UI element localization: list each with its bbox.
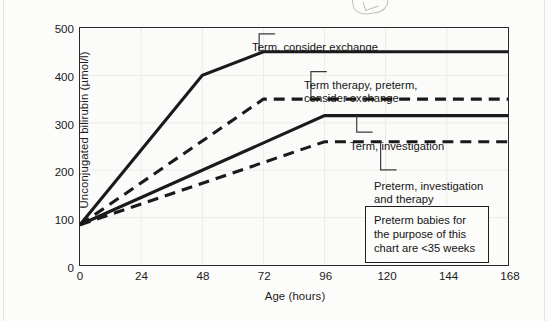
scan-edge-left: [3, 0, 4, 321]
x-axis-label: Age (hours): [80, 290, 510, 302]
y-tick-0: 0: [36, 261, 74, 274]
y-axis-label: Unconjugated bilirubin (µmol/l): [78, 0, 90, 280]
y-tick-200: 200: [36, 165, 74, 178]
chart-plot-area: 0 100 200 300 400 500 0 24 48 72 96 120 …: [79, 27, 509, 266]
x-tick-144: 144: [439, 269, 458, 282]
annotation-term-consider-exchange: Term, consider exchange: [252, 41, 378, 54]
y-tick-400: 400: [36, 69, 74, 82]
x-tick-72: 72: [258, 269, 271, 282]
x-axis-ticks: 0 24 48 72 96 120 144 168: [80, 269, 510, 289]
annotation-term-investigation: Term, investigation: [350, 140, 444, 153]
page-artifact-icon: [350, 0, 390, 16]
scan-edge-right: [544, 0, 545, 321]
annotation-term-therapy-preterm: Term therapy, preterm, consider exchange: [304, 79, 417, 105]
annotation-preterm-investigation-therapy: Preterm, investigation and therapy: [374, 180, 483, 206]
y-tick-100: 100: [36, 213, 74, 226]
x-tick-24: 24: [135, 269, 148, 282]
x-tick-48: 48: [196, 269, 209, 282]
chart-page: 0 100 200 300 400 500 0 24 48 72 96 120 …: [0, 0, 551, 321]
x-tick-96: 96: [319, 269, 332, 282]
x-tick-168: 168: [500, 269, 519, 282]
y-tick-300: 300: [36, 117, 74, 130]
note-box: Preterm babies for the purpose of this c…: [365, 206, 489, 263]
y-tick-500: 500: [36, 22, 74, 35]
x-tick-120: 120: [377, 269, 396, 282]
